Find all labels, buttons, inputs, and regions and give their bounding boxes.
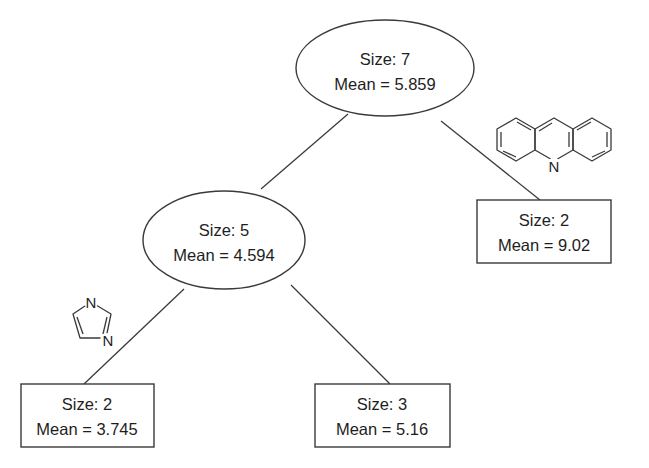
- root-mean-label: Mean = 5.859: [334, 75, 435, 93]
- imidazole-structure-icon: N N: [73, 294, 114, 349]
- leaf-left-left-size-label: Size: 2: [62, 395, 112, 413]
- imidazole-n1-label: N: [86, 294, 97, 311]
- node-leaf-right: Size: 2 Mean = 9.02: [477, 200, 611, 263]
- root-size-label: Size: 7: [360, 50, 410, 68]
- node-leaf-left-right: Size: 3 Mean = 5.16: [315, 384, 450, 447]
- edge-internal-to-leaf-left-right: [291, 285, 390, 384]
- leaf-left-right-mean-label: Mean = 5.16: [336, 420, 428, 438]
- edge-root-to-internal-left: [261, 114, 348, 189]
- imidazole-n3-label: N: [103, 332, 114, 349]
- leaf-right-size-label: Size: 2: [519, 211, 569, 229]
- internal-left-size-label: Size: 5: [199, 221, 249, 239]
- edge-internal-to-leaf-left-left: [84, 289, 184, 384]
- node-internal-left: Size: 5 Mean = 4.594: [143, 191, 305, 289]
- edge-root-to-leaf-right: [441, 121, 540, 200]
- internal-left-mean-label: Mean = 4.594: [173, 246, 274, 264]
- leaf-left-right-size-label: Size: 3: [357, 395, 407, 413]
- node-leaf-left-left: Size: 2 Mean = 3.745: [21, 384, 154, 447]
- leaf-left-left-mean-label: Mean = 3.745: [36, 420, 137, 438]
- acridine-n-label: N: [549, 158, 560, 175]
- acridine-structure-icon: N: [497, 118, 611, 175]
- root-ellipse: [296, 20, 474, 116]
- internal-left-ellipse: [143, 191, 305, 289]
- leaf-right-mean-label: Mean = 9.02: [498, 236, 590, 254]
- node-root: Size: 7 Mean = 5.859: [296, 20, 474, 116]
- regression-tree-diagram: Size: 7 Mean = 5.859 Size: 5 Mean = 4.59…: [0, 0, 649, 468]
